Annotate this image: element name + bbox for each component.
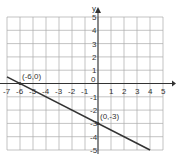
x-tick-label: -7: [3, 87, 11, 96]
x-tick-label: 3: [135, 87, 140, 96]
x-tick-label: -4: [42, 87, 50, 96]
x-tick-label: -1: [81, 87, 89, 96]
point-marker: [19, 82, 22, 85]
x-tick-label: -3: [55, 87, 63, 96]
y-tick-label: -5: [90, 146, 98, 155]
point-label-y-intercept: (0,-3): [100, 112, 119, 121]
x-tick-label: 4: [148, 87, 153, 96]
y-tick-label: 5: [92, 13, 97, 22]
y-tick-label: -2: [90, 106, 98, 115]
y-tick-label: 4: [92, 26, 97, 35]
x-tick-label: 1: [109, 87, 114, 96]
point-label-x-intercept: (-6,0): [22, 72, 41, 81]
y-tick-label: 3: [92, 40, 97, 49]
y-tick-label: 2: [92, 53, 97, 62]
x-tick-label: 5: [161, 87, 166, 96]
graphed-line: [7, 77, 150, 150]
y-tick-label: -1: [90, 93, 98, 102]
point-marker: [97, 122, 100, 125]
y-tick-label: -4: [90, 133, 98, 142]
x-tick-label: 2: [122, 87, 127, 96]
x-tick-label: -2: [68, 87, 76, 96]
x-tick-label: -6: [16, 87, 24, 96]
line-chart: y-7-6-5-4-3-2-101234554321-1-2-3-4-5(-6,…: [0, 0, 176, 162]
y-tick-label: 1: [92, 66, 97, 75]
x-tick-label: 0: [91, 75, 96, 84]
x-axis-arrow-icon: [172, 81, 176, 87]
y-axis-label: y: [92, 4, 96, 13]
